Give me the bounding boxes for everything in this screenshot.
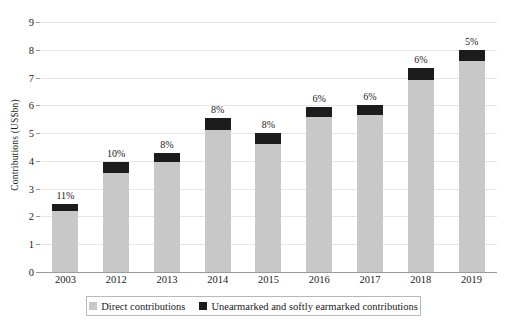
x-axis-line	[40, 272, 497, 273]
bar-segment-direct[interactable]	[154, 162, 180, 272]
bar-segment-direct[interactable]	[255, 144, 281, 272]
stacked-bar[interactable]	[103, 162, 129, 272]
stacked-bar[interactable]	[357, 105, 383, 272]
legend-swatch-icon-unearmarked	[199, 302, 207, 310]
stacked-bar[interactable]	[255, 133, 281, 272]
bar-slot: 8%	[142, 22, 193, 272]
x-axis-tick-label: 2013	[156, 274, 177, 285]
bar-segment-unearmarked[interactable]	[103, 162, 129, 173]
bar-slot: 6%	[345, 22, 396, 272]
x-axis-tick-label: 2012	[106, 274, 127, 285]
stacked-bar[interactable]	[306, 107, 332, 272]
y-axis-tick-label: 2	[29, 211, 34, 222]
legend-item-direct-contributions: Direct contributions	[89, 301, 185, 312]
bar-segment-unearmarked[interactable]	[408, 68, 434, 80]
bar-percentage-label: 8%	[262, 119, 275, 130]
x-axis-tick-label: 2017	[360, 274, 381, 285]
stacked-bar[interactable]	[52, 204, 78, 272]
bar-segment-unearmarked[interactable]	[255, 133, 281, 144]
bar-segment-unearmarked[interactable]	[205, 118, 231, 130]
y-axis-tick-label: 4	[29, 155, 34, 166]
bar-percentage-label: 6%	[363, 91, 376, 102]
bar-percentage-label: 10%	[107, 148, 125, 159]
y-axis-tick-label: 1	[29, 239, 34, 250]
bar-group: 11%10%8%8%8%6%6%6%5%	[40, 22, 497, 272]
legend-label-unearmarked: Unearmarked and softly earmarked contrib…	[211, 301, 417, 312]
legend-label-direct: Direct contributions	[101, 301, 185, 312]
stacked-bar[interactable]	[459, 50, 485, 272]
x-axis-tick-label: 2018	[410, 274, 431, 285]
legend-item-unearmarked-contributions: Unearmarked and softly earmarked contrib…	[199, 301, 417, 312]
bar-slot: 6%	[395, 22, 446, 272]
stacked-bar[interactable]	[205, 118, 231, 272]
plot-area: 0123456789 11%10%8%8%8%6%6%6%5%	[40, 22, 497, 272]
legend-swatch-icon-direct	[89, 302, 97, 310]
y-axis-tick-label: 6	[29, 100, 34, 111]
chart-legend: Direct contributions Unearmarked and sof…	[86, 296, 421, 316]
bar-segment-direct[interactable]	[306, 117, 332, 272]
bar-slot: 11%	[40, 22, 91, 272]
bar-segment-unearmarked[interactable]	[52, 204, 78, 212]
bar-percentage-label: 8%	[160, 139, 173, 150]
bar-percentage-label: 8%	[211, 104, 224, 115]
bar-segment-unearmarked[interactable]	[459, 50, 485, 61]
bar-percentage-label: 6%	[414, 54, 427, 65]
bar-slot: 10%	[91, 22, 142, 272]
y-axis-label: Contributions (US$bn)	[10, 80, 20, 210]
x-axis-tick-label: 2003	[55, 274, 76, 285]
bar-segment-direct[interactable]	[52, 211, 78, 272]
bar-segment-direct[interactable]	[205, 130, 231, 272]
bar-segment-unearmarked[interactable]	[306, 107, 332, 117]
bar-segment-direct[interactable]	[357, 115, 383, 272]
stacked-bar[interactable]	[408, 68, 434, 272]
bar-segment-direct[interactable]	[459, 61, 485, 272]
stacked-bar[interactable]	[154, 153, 180, 272]
x-axis-tick-label: 2016	[309, 274, 330, 285]
bar-percentage-label: 11%	[56, 190, 74, 201]
y-axis-label-container: Contributions (US$bn)	[2, 0, 18, 322]
bar-slot: 8%	[243, 22, 294, 272]
bar-percentage-label: 5%	[465, 36, 478, 47]
y-axis-tick-label: 3	[29, 183, 34, 194]
bar-segment-direct[interactable]	[408, 80, 434, 272]
y-axis-tick-label: 7	[29, 72, 34, 83]
bar-slot: 5%	[446, 22, 497, 272]
bar-slot: 8%	[192, 22, 243, 272]
x-axis-tick-label: 2015	[258, 274, 279, 285]
x-axis-tick-label: 2014	[207, 274, 228, 285]
bar-slot: 6%	[294, 22, 345, 272]
bar-percentage-label: 6%	[313, 93, 326, 104]
y-axis-tick-label: 9	[29, 17, 34, 28]
y-axis-tick-label: 5	[29, 128, 34, 139]
y-axis-tick-label: 8	[29, 44, 34, 55]
y-axis-tick-label: 0	[29, 267, 34, 278]
bar-segment-unearmarked[interactable]	[357, 105, 383, 115]
x-axis-ticks: 200320122013201420152016201720182019	[40, 274, 497, 290]
stacked-bar-chart: Contributions (US$bn) 0123456789 11%10%8…	[0, 0, 505, 322]
bar-segment-direct[interactable]	[103, 173, 129, 272]
x-axis-tick-label: 2019	[461, 274, 482, 285]
bar-segment-unearmarked[interactable]	[154, 153, 180, 162]
